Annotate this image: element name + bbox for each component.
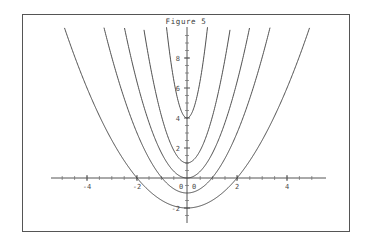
x-tick-label: 4 [285,183,289,191]
plot-canvas: -4 -2 0 2 4 8 6 4 2 0 -2 [23,15,351,233]
axes-group [51,27,326,223]
figure-frame: Figure 5 [22,14,350,232]
x-tick-label: 2 [235,183,239,191]
y-tick-label: 2 [176,145,180,153]
x-tick-labels: -4 -2 0 2 4 [83,183,289,191]
x-tick-label: -2 [133,183,141,191]
y-tick-label: 4 [176,115,180,123]
x-tick-label: -4 [83,183,91,191]
y-tick-label: 0 [192,183,196,191]
x-tick-label: 0 [179,183,183,191]
y-tick-label: 8 [176,55,180,63]
